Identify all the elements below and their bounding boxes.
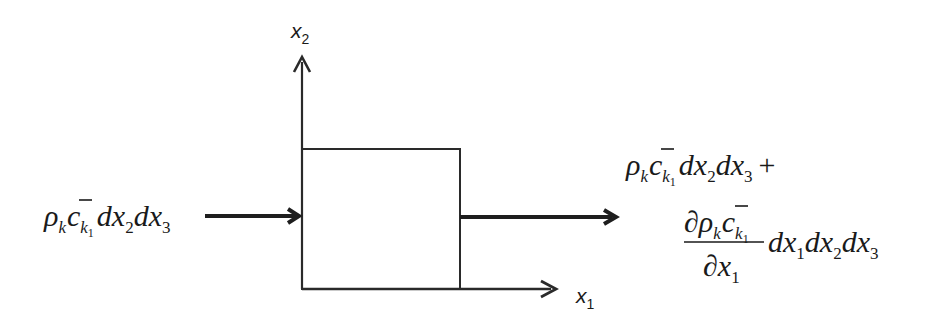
inflow-arrow (205, 209, 299, 223)
outflow-flux-expression-line1: ρkck1dx2dx3+ (625, 148, 775, 189)
x2-axis-label: x2 (290, 19, 310, 47)
outflow-flux-expression-line2: ∂ρkck1 ∂x1 dx1dx2dx3 (684, 205, 878, 287)
inflow-flux-expression: ρkck1dx2dx3 (43, 199, 170, 240)
fraction-denominator: ∂x1 (703, 249, 740, 287)
fraction-numerator: ∂ρkck1 (684, 205, 749, 246)
differential-volume-term: dx1dx2dx3 (768, 225, 878, 263)
outflow-arrow (460, 210, 616, 224)
control-volume-diagram: x2 x1 ρkck1dx2dx3 ρkck1dx2dx3+ ∂ρkck1 ∂x… (0, 0, 933, 316)
x1-axis-label: x1 (575, 284, 595, 312)
control-volume-box (302, 149, 460, 289)
